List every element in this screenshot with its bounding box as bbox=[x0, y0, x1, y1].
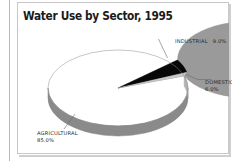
pie-label-agricultural-name: AGRICULTURAL bbox=[37, 130, 78, 137]
pie-label-domestic-value: 6.0% bbox=[205, 86, 232, 93]
frame-drop-shadow-bottom bbox=[19, 155, 231, 157]
pie-label-domestic-name: DOMESTIC bbox=[205, 79, 232, 86]
pie-slice-industrial[interactable] bbox=[118, 60, 187, 88]
pie-label-industrial-name: INDUSTRIAL bbox=[175, 38, 208, 44]
pie-label-domestic: DOMESTIC 6.0% bbox=[205, 79, 232, 93]
figure-container: Water Use by Sector, 1995 INDUSTR bbox=[0, 0, 232, 161]
pie-chart-plot-area: INDUSTRIAL9.0% DOMESTIC 6.0% AGRICULTURA… bbox=[17, 2, 229, 154]
pie-label-industrial-value: 9.0% bbox=[213, 38, 227, 44]
pie-label-agricultural-value: 85.0% bbox=[37, 137, 78, 144]
leader-line-industrial bbox=[159, 39, 168, 58]
pie-slice-side-agricultural bbox=[48, 88, 188, 136]
page-left-rule bbox=[9, 0, 10, 161]
pie-label-agricultural: AGRICULTURAL 85.0% bbox=[37, 130, 78, 144]
pie-label-industrial: INDUSTRIAL9.0% bbox=[175, 38, 226, 45]
